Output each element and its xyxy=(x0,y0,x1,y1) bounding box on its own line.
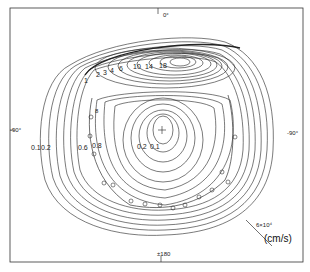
contour-label: 0.1 xyxy=(31,144,41,151)
contour-label: 4 xyxy=(110,67,114,74)
contour-label: 0.2 xyxy=(137,143,147,150)
contour-label: 18 xyxy=(159,62,167,69)
contour-label: 10 xyxy=(133,63,141,70)
contour-diagram xyxy=(0,0,310,272)
contour-label: 14 xyxy=(145,63,153,70)
scale-value: 6×10⁴ xyxy=(256,222,272,228)
contour-label: 0.2 xyxy=(41,144,51,151)
contour-label: 3 xyxy=(103,69,107,76)
outer-contours xyxy=(40,38,273,236)
contour-label: 2 xyxy=(96,71,100,78)
contour-label: 6 xyxy=(119,65,123,72)
axis-label-top: 0° xyxy=(163,12,169,18)
contour-label: 1 xyxy=(84,77,88,84)
axis-label-left: -90° xyxy=(10,127,21,133)
contour-label: 0.8 xyxy=(92,142,102,149)
marker-label: 8 xyxy=(95,108,98,114)
axis-label-bottom: ±180 xyxy=(157,251,170,257)
contour-label: 0.6 xyxy=(78,144,88,151)
contour-label: 0.1 xyxy=(150,143,160,150)
axis-label-right: -90° xyxy=(287,130,298,136)
scale-unit: (cm/s) xyxy=(264,233,292,244)
